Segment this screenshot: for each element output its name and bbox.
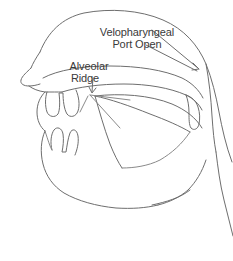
label-alveolar-line-1: Alveolar (67, 61, 111, 73)
jaw-chin-path (41, 131, 158, 208)
alveolar-ridge-detail-path-2 (90, 95, 120, 128)
neck-front-path (158, 160, 206, 205)
epiglottis-path (152, 190, 190, 205)
nose-underside-path (29, 86, 62, 92)
nose-path (21, 68, 40, 86)
neck-back-path (216, 152, 233, 236)
tongue-path (95, 96, 190, 132)
label-velopharyngeal-line-1: Velopharyngeal (88, 27, 186, 39)
alveolar-ridge-detail-path-3 (80, 96, 88, 112)
label-alveolar-ridge: Alveolar Ridge (59, 61, 111, 84)
label-velopharyngeal-port-open: Velopharyngeal Port Open (88, 27, 186, 50)
forehead-brow-path (31, 52, 40, 68)
upper-teeth-path (46, 90, 80, 116)
soft-palate-velum-path (186, 95, 200, 129)
lips-path (37, 92, 45, 131)
vocal-tract-diagram: Velopharyngeal Port Open Alveolar Ridge (0, 0, 233, 261)
tongue-root-path (122, 132, 190, 168)
tongue-underside-path (95, 96, 122, 168)
label-alveolar-line-2: Ridge (59, 73, 111, 85)
label-velopharyngeal-line-2: Port Open (88, 39, 186, 51)
lower-teeth-path (51, 128, 78, 155)
